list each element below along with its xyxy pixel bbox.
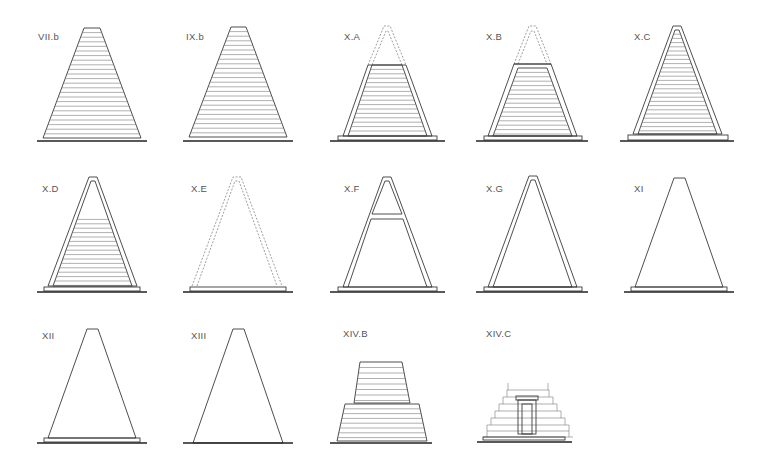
- figure-label: IX.b: [186, 31, 204, 42]
- figure-x-e: X.E: [183, 177, 293, 292]
- figure-label: X.D: [42, 183, 59, 194]
- figure-vii-b: VII.b: [37, 28, 147, 141]
- figure-label: X.E: [191, 183, 207, 194]
- step-course: [499, 404, 557, 411]
- pyramid-outline: [193, 329, 283, 443]
- courses: [45, 33, 140, 134]
- figure-x-a: X.A: [330, 26, 445, 141]
- casing-inner-lower: [348, 219, 427, 287]
- figure-xi: XI: [624, 178, 734, 292]
- casing-outer: [343, 65, 432, 136]
- figure-label: X.G: [486, 183, 503, 194]
- door-lintel: [516, 396, 538, 400]
- courses: [494, 72, 572, 134]
- plinth: [484, 136, 582, 140]
- upper-stage: [354, 362, 410, 403]
- figure-label: X.F: [344, 183, 360, 194]
- casing-inner: [493, 68, 572, 136]
- plinth: [190, 287, 286, 291]
- door-frame: [518, 400, 536, 434]
- plinth: [628, 135, 728, 140]
- dashed-apex-inner: [518, 31, 547, 64]
- casing-inner: [348, 65, 427, 136]
- figure-label: X.A: [344, 31, 361, 42]
- step-course: [495, 411, 561, 418]
- figure-label: VII.b: [38, 31, 59, 42]
- figure-x-b: X.B: [476, 26, 588, 141]
- figure-xiv-b: XIV.B: [330, 328, 432, 443]
- figure-x-c: X.C: [620, 26, 734, 141]
- plinth: [338, 136, 437, 140]
- casing-inner-upper: [372, 181, 402, 214]
- figure-label: XI: [634, 183, 644, 194]
- figure-label: XIII: [191, 330, 206, 341]
- plinth: [483, 437, 565, 440]
- figure-xiii: XIII: [183, 329, 293, 443]
- figure-label: XIV.B: [343, 328, 368, 339]
- dashed-casing-inner: [197, 181, 277, 286]
- courses: [639, 34, 716, 131]
- stepped-courses: [483, 390, 573, 437]
- figure-x-f: X.F: [330, 177, 445, 292]
- plinth: [44, 438, 140, 442]
- casing-inner: [493, 180, 572, 287]
- casing-outer: [633, 26, 722, 134]
- figure-xiv-c: XIV.C: [477, 328, 573, 442]
- plinth: [44, 287, 140, 291]
- courses: [191, 32, 286, 133]
- figure-label: XII: [42, 330, 55, 341]
- plinth: [631, 287, 727, 291]
- step-course: [491, 418, 565, 425]
- casing-outer: [48, 177, 137, 286]
- figure-ix-b: IX.b: [183, 27, 293, 141]
- figure-label: XIV.C: [486, 328, 511, 339]
- plinth: [484, 287, 582, 291]
- dashed-apex-inner: [372, 31, 402, 65]
- lower-stage: [337, 404, 427, 441]
- step-course: [487, 425, 569, 431]
- figure-x-g: X.G: [476, 176, 588, 292]
- door-opening: [522, 404, 532, 434]
- pyramid-outline: [635, 178, 723, 287]
- pyramid-types-diagram: VII.b IX.b X.A X.B X.C: [0, 0, 770, 463]
- figure-xii: XII: [37, 329, 147, 443]
- step-course: [503, 397, 553, 404]
- dashed-apex-outer: [368, 26, 406, 65]
- pyramid-outline: [48, 329, 136, 438]
- figure-x-d: X.D: [37, 177, 147, 292]
- plinth: [338, 287, 437, 291]
- figure-label: X.C: [634, 31, 651, 42]
- figure-label: X.B: [486, 31, 502, 42]
- casing-inner: [53, 181, 132, 286]
- dashed-apex-outer: [514, 26, 551, 64]
